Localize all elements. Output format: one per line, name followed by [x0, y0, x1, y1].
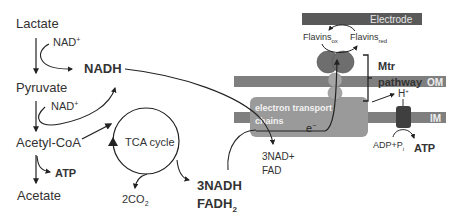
nad3-label: 3NAD+ [262, 151, 295, 162]
atp-synthase [396, 106, 411, 128]
om-label: OM [427, 77, 443, 88]
acetyl-coa-label: Acetyl-CoA [16, 135, 81, 150]
proton-arrow [372, 94, 394, 102]
im-label: IM [430, 113, 441, 124]
nadh3-label: 3NADH [197, 178, 242, 193]
tca-to-nadh3-curve [177, 160, 189, 180]
tca-direction-triangle-icon [108, 137, 118, 146]
lactate-label: Lactate [16, 16, 59, 31]
metabolism-diagram: Lactate Pyruvate Acetyl-CoA Acetate NAD+… [0, 0, 465, 224]
atp-right-label: ATP [414, 142, 435, 154]
electrode-label: Electrode [370, 14, 413, 25]
nad-plus-label-1: NAD+ [53, 36, 80, 48]
pyruvate-label: Pyruvate [16, 80, 67, 95]
mtr-label-line1: Mtr [378, 60, 396, 72]
nadh-label: NADH [84, 61, 122, 76]
co2-label: 2CO2 [122, 193, 149, 207]
tca-to-co2-curve [135, 174, 147, 188]
atp-branch-curve [37, 156, 50, 172]
fadh2-to-etc-curve [228, 130, 256, 170]
nad-plus-label-2: NAD+ [51, 100, 78, 112]
acetate-label: Acetate [17, 188, 61, 203]
flavin-cycle-top-arrow [329, 25, 355, 31]
flavins-red-label: Flavinsred [350, 32, 387, 44]
mtr-small-protein-upper [328, 73, 342, 87]
etc-label-line1: electron transport [255, 103, 332, 113]
flavins-ox-label: Flavinsox [303, 32, 338, 44]
adp-label: ADP+Pi [373, 140, 404, 152]
tca-cycle-label: TCA cycle [125, 136, 175, 148]
atp-left-label: ATP [55, 167, 76, 179]
proton-label: H+ [398, 88, 409, 99]
acetylcoa-to-tca-arrow [82, 124, 111, 139]
mtr-large-protein-right [332, 51, 354, 73]
fad-label: FAD [262, 165, 281, 176]
adp-to-atp-arc [393, 130, 414, 138]
fadh2-label: FADH2 [197, 196, 237, 214]
mtr-label-line2: pathway [378, 76, 423, 88]
